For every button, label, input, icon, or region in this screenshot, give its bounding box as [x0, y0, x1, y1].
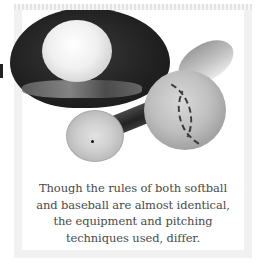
caption-line: techniques used, differ. — [22, 230, 244, 247]
grunge-edge-top — [14, 4, 252, 10]
bat-knob — [66, 110, 124, 162]
photo-caption: Though the rules of both softball and ba… — [22, 180, 244, 246]
bat-knob-dot — [91, 140, 94, 143]
left-edge-mark — [0, 64, 3, 78]
caption-line: Though the rules of both softball — [22, 180, 244, 197]
softball-icon — [42, 20, 112, 82]
caption-line: the equipment and pitching — [22, 213, 244, 230]
caption-line: and baseball are almost identical, — [22, 197, 244, 214]
